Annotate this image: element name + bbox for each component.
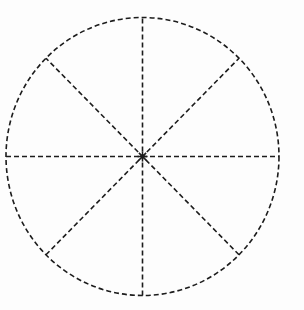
dashed-pie-circle-diagram [0, 0, 304, 310]
figure-background [0, 0, 304, 310]
figure-canvas [0, 0, 304, 310]
center-convergence-point [137, 151, 147, 161]
